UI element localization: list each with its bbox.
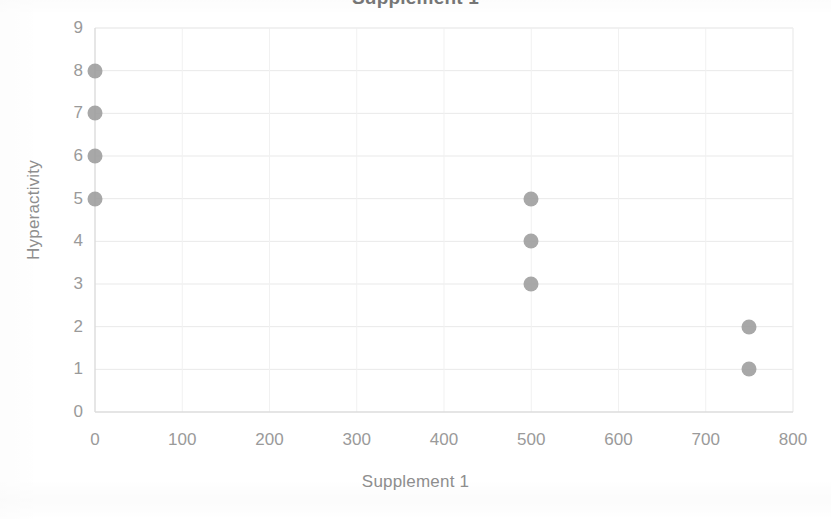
y-tick-label: 9 xyxy=(74,18,83,38)
x-tick-label: 0 xyxy=(90,430,99,450)
data-point xyxy=(88,106,103,121)
data-point xyxy=(88,191,103,206)
x-tick-label: 400 xyxy=(430,430,458,450)
data-point xyxy=(524,234,539,249)
data-point xyxy=(88,149,103,164)
y-axis-title: Hyperactivity xyxy=(24,130,44,290)
x-tick-label: 700 xyxy=(692,430,720,450)
data-point xyxy=(742,319,757,334)
x-tick-label: 200 xyxy=(255,430,283,450)
x-tick-label: 800 xyxy=(779,430,807,450)
y-tick-label: 1 xyxy=(74,359,83,379)
y-tick-label: 7 xyxy=(74,103,83,123)
x-axis-title: Supplement 1 xyxy=(0,472,831,492)
x-tick-label: 100 xyxy=(168,430,196,450)
y-tick-label: 3 xyxy=(74,274,83,294)
data-point xyxy=(524,191,539,206)
data-point xyxy=(88,63,103,78)
y-tick-label: 6 xyxy=(74,146,83,166)
x-tick-label: 600 xyxy=(604,430,632,450)
y-tick-label: 2 xyxy=(74,317,83,337)
y-tick-label: 0 xyxy=(74,402,83,422)
data-point xyxy=(524,277,539,292)
data-point xyxy=(742,362,757,377)
y-tick-label: 4 xyxy=(74,231,83,251)
x-tick-label: 500 xyxy=(517,430,545,450)
x-tick-label: 300 xyxy=(343,430,371,450)
y-tick-label: 8 xyxy=(74,61,83,81)
scatter-chart: Supplement 1 0123456789 0100200300400500… xyxy=(0,0,831,519)
y-tick-label: 5 xyxy=(74,189,83,209)
